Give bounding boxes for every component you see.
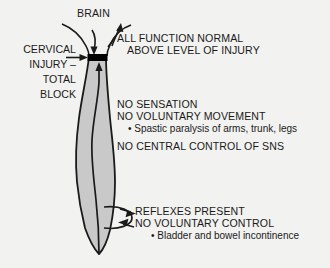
below-injury-bullet-1: • Spastic paralysis of arms, trunk, legs (117, 123, 297, 134)
brain-label: BRAIN (77, 8, 110, 20)
below-injury-line-3: NO CENTRAL CONTROL OF SNS (117, 141, 297, 153)
reflex-arc-bullet-1: • Bladder and bowel incontinence (135, 230, 299, 241)
cervical-label-arrow-head (80, 54, 89, 61)
below-injury-line-2: NO VOLUNTARY MOVEMENT (117, 111, 297, 123)
injury-block-bar (88, 55, 107, 61)
ascending-arrow-head (116, 23, 123, 32)
reflex-arc-line-2: NO VOLUNTARY CONTROL (135, 218, 299, 230)
reflex-arc-text-block: REFLEXES PRESENT NO VOLUNTARY CONTROL • … (135, 206, 299, 241)
above-injury-text-block: ALL FUNCTION NORMAL ABOVE LEVEL OF INJUR… (117, 33, 260, 57)
cervical-injury-label: CERVICAL INJURY – TOTAL BLOCK (2, 42, 76, 102)
cervical-injury-line-2: INJURY – (2, 57, 76, 72)
cervical-injury-line-3: TOTAL (2, 72, 76, 87)
below-injury-text-block: NO SENSATION NO VOLUNTARY MOVEMENT • Spa… (117, 99, 297, 153)
descending-arrow-head (90, 47, 97, 56)
spinal-cord-injury-diagram: BRAIN CERVICAL INJURY – TOTAL BLOCK ALL … (0, 0, 330, 268)
cervical-injury-line-1: CERVICAL (2, 42, 76, 57)
cervical-injury-line-4: BLOCK (2, 87, 76, 102)
above-injury-line-2: ABOVE LEVEL OF INJURY (117, 45, 260, 57)
spinal-cord-body (76, 57, 115, 254)
